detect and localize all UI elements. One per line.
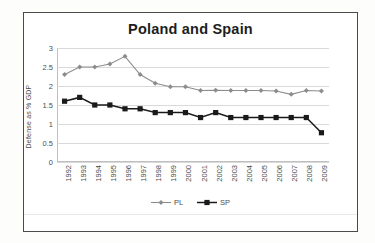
x-axis-tick-label: 1996 (124, 165, 133, 182)
data-point-square (289, 115, 294, 120)
data-point-square (228, 115, 233, 120)
data-point-diamond (213, 88, 218, 93)
data-point-square (319, 130, 324, 135)
data-point-diamond (62, 72, 67, 77)
data-point-diamond (153, 81, 158, 86)
data-point-square (168, 110, 173, 115)
data-point-square (243, 115, 248, 120)
data-point-diamond (92, 65, 97, 70)
x-axis-tick-label: 1992 (63, 165, 72, 182)
data-point-diamond (243, 88, 248, 93)
x-axis-tick-label: 2006 (275, 165, 284, 182)
series-line (65, 97, 322, 132)
data-point-diamond (183, 84, 188, 89)
chart-legend: PLSP (24, 198, 357, 207)
x-axis-tick-label: 2004 (244, 165, 253, 182)
y-axis-tick-label: 2.5 (43, 63, 53, 72)
chart-frame: Poland and Spain Defense as % GDP 00.511… (23, 12, 358, 232)
x-axis-tick-label: 2008 (305, 165, 314, 182)
data-point-diamond (228, 88, 233, 93)
data-point-diamond (107, 61, 112, 66)
y-axis-tick-label: 1.5 (43, 101, 53, 110)
data-point-diamond (77, 65, 82, 70)
legend-marker-square-icon (197, 198, 217, 207)
data-point-square (122, 106, 127, 111)
x-axis-tick-label: 2002 (214, 165, 223, 182)
x-axis-tick-label: 2009 (320, 165, 329, 182)
x-axis-tick-label: 1999 (169, 165, 178, 182)
y-axis-tick-label: 2 (49, 82, 53, 91)
gridline (57, 162, 329, 163)
y-axis-tick-label: 0.5 (43, 139, 53, 148)
data-point-square (77, 95, 82, 100)
data-point-square (153, 110, 158, 115)
data-point-square (107, 102, 112, 107)
y-axis-tick-label: 1 (49, 120, 53, 129)
legend-item-sp[interactable]: SP (197, 198, 230, 207)
data-point-diamond (168, 84, 173, 89)
data-point-square (274, 115, 279, 120)
x-axis-tick-label: 1993 (78, 165, 87, 182)
y-axis-tick-label: 0 (49, 158, 53, 167)
data-point-diamond (289, 92, 294, 97)
data-point-square (138, 106, 143, 111)
legend-label: PL (174, 198, 183, 207)
x-axis-tick-label: 1997 (139, 165, 148, 182)
frame-inner-divider (24, 214, 357, 215)
series-line (65, 56, 322, 94)
x-axis-tick-label: 2001 (199, 165, 208, 182)
data-point-diamond (198, 88, 203, 93)
series-plot (57, 48, 329, 162)
data-point-diamond (319, 88, 324, 93)
x-axis-tick-label: 2007 (290, 165, 299, 182)
legend-item-pl[interactable]: PL (151, 198, 183, 207)
data-point-square (183, 110, 188, 115)
data-point-square (258, 115, 263, 120)
y-axis-tick-label: 3 (49, 44, 53, 53)
series-pl (62, 54, 324, 97)
legend-marker-diamond-icon (151, 198, 171, 207)
data-point-diamond (274, 88, 279, 93)
data-point-square (304, 115, 309, 120)
x-axis-tick-label: 2005 (260, 165, 269, 182)
x-axis-tick-label: 1998 (154, 165, 163, 182)
data-point-square (92, 102, 97, 107)
x-axis-tick-label: 2003 (229, 165, 238, 182)
plot-area: 00.511.522.53 19921993199419951996199719… (57, 48, 329, 162)
data-point-square (198, 115, 203, 120)
series-sp (62, 95, 324, 136)
x-axis-tick-label: 2000 (184, 165, 193, 182)
x-axis-tick-label: 1994 (93, 165, 102, 182)
y-axis-title: Defense as % GDP (25, 85, 32, 149)
data-point-diamond (259, 88, 264, 93)
legend-label: SP (220, 198, 230, 207)
data-point-square (213, 110, 218, 115)
chart-title: Poland and Spain (24, 21, 357, 37)
data-point-diamond (304, 88, 309, 93)
data-point-square (62, 99, 67, 104)
x-axis-tick-label: 1995 (108, 165, 117, 182)
